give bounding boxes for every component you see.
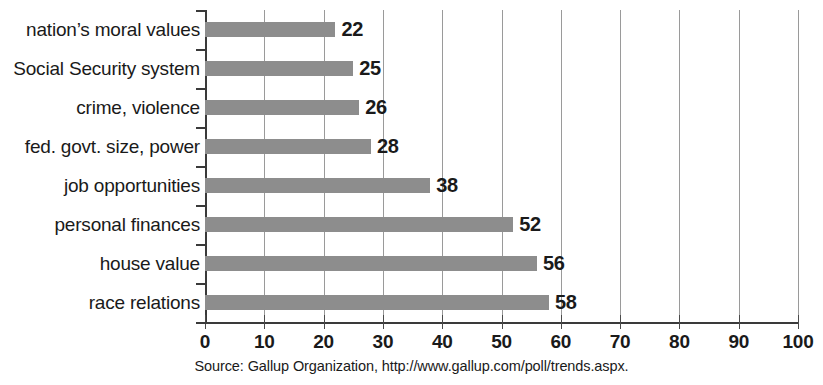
- bar-row: nation’s moral values22: [0, 10, 823, 49]
- y-tick: [196, 205, 206, 207]
- bar-row: house value56: [0, 244, 823, 283]
- category-label: race relations: [0, 283, 200, 322]
- bar-row: job opportunities38: [0, 166, 823, 205]
- bar-value-label: 26: [365, 88, 386, 127]
- category-label: nation’s moral values: [0, 10, 200, 49]
- bar-value-label: 58: [555, 283, 576, 322]
- category-label: fed. govt. size, power: [0, 127, 200, 166]
- x-tick-label-0: 0: [200, 331, 210, 353]
- bar-value-label: 38: [436, 166, 457, 205]
- x-tick-label-60: 60: [551, 331, 572, 353]
- bar-row: race relations58: [0, 283, 823, 322]
- bar-value-label: 56: [543, 244, 564, 283]
- bar-value-label: 28: [377, 127, 398, 166]
- bar-value-label: 25: [359, 49, 380, 88]
- y-tick: [196, 283, 206, 285]
- y-tick: [196, 244, 206, 246]
- category-label: Social Security system: [0, 49, 200, 88]
- bar-row: Social Security system25: [0, 49, 823, 88]
- category-label: crime, violence: [0, 88, 200, 127]
- source-note: Source: Gallup Organization, http://www.…: [0, 358, 823, 374]
- category-label: house value: [0, 244, 200, 283]
- x-tick-label-20: 20: [313, 331, 334, 353]
- x-tick-label-100: 100: [783, 331, 814, 353]
- x-tick-label-90: 90: [728, 331, 749, 353]
- category-label: personal finances: [0, 205, 200, 244]
- bar-value-label: 52: [519, 205, 540, 244]
- bar: [205, 217, 513, 232]
- bar-row: crime, violence26: [0, 88, 823, 127]
- x-tick-label-80: 80: [669, 331, 690, 353]
- x-tick-label-40: 40: [432, 331, 453, 353]
- bar: [205, 256, 537, 271]
- y-tick: [196, 322, 206, 324]
- bar-chart-figure: Source: Gallup Organization, http://www.…: [0, 0, 823, 385]
- x-tick-label-50: 50: [491, 331, 512, 353]
- bar-row: personal finances52: [0, 205, 823, 244]
- bar: [205, 22, 335, 37]
- y-tick: [196, 10, 206, 12]
- x-tick-label-30: 30: [373, 331, 394, 353]
- x-tick-label-10: 10: [254, 331, 275, 353]
- category-label: job opportunities: [0, 166, 200, 205]
- y-tick: [196, 127, 206, 129]
- bar: [205, 100, 359, 115]
- bar-row: fed. govt. size, power28: [0, 127, 823, 166]
- bar: [205, 295, 549, 310]
- x-tick-label-70: 70: [610, 331, 631, 353]
- bar: [205, 139, 371, 154]
- y-tick: [196, 88, 206, 90]
- bar: [205, 178, 430, 193]
- y-tick: [196, 49, 206, 51]
- bar: [205, 61, 353, 76]
- y-tick: [196, 166, 206, 168]
- bar-value-label: 22: [341, 10, 362, 49]
